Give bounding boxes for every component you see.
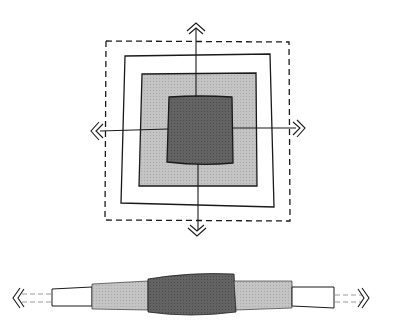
chevron-down-icon xyxy=(188,225,206,236)
gray-left xyxy=(92,281,148,310)
dashed-right xyxy=(335,295,362,302)
expansion-diagram xyxy=(0,0,395,333)
dark-core xyxy=(148,274,236,315)
gray-right xyxy=(234,281,292,310)
white-right xyxy=(292,287,334,308)
chevron-right-icon xyxy=(358,288,369,308)
side-view xyxy=(13,274,369,315)
white-left xyxy=(52,287,92,306)
top-view xyxy=(91,23,305,236)
dashed-left xyxy=(22,294,52,302)
core xyxy=(167,96,233,164)
chevron-left-icon xyxy=(13,288,24,308)
